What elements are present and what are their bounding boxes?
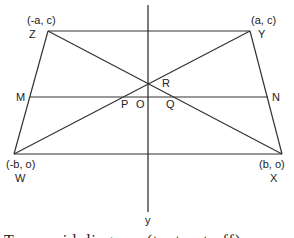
diagonal-yw	[14, 31, 250, 154]
vertex-x-coords: (b, o)	[259, 158, 285, 170]
diagram-canvas: (-a, c) Z (a, c) Y (-b, o) W (b, o) X M …	[0, 0, 294, 238]
caption-text: Trapezoid diagram (text cut off)	[4, 233, 290, 238]
vertex-y-coords: (a, c)	[251, 14, 276, 26]
point-q-label: Q	[166, 98, 175, 110]
vertex-z-label: Z	[29, 28, 36, 40]
point-o-label: O	[136, 98, 145, 110]
point-n-label: N	[272, 91, 280, 103]
diagonal-zx	[48, 31, 282, 154]
point-p-label: P	[121, 98, 128, 110]
vertex-w-coords: (-b, o)	[6, 158, 35, 170]
point-r-label: R	[162, 77, 170, 89]
vertex-w-label: W	[15, 172, 25, 184]
point-m-label: M	[16, 91, 25, 103]
figure-caption-cutoff: Trapezoid diagram (text cut off)	[4, 229, 290, 238]
trapezoid-figure	[0, 0, 294, 238]
vertex-z-coords: (-a, c)	[27, 14, 56, 26]
vertex-y-label: Y	[258, 28, 265, 40]
y-axis-label: y	[145, 214, 151, 226]
vertex-x-label: X	[270, 172, 277, 184]
